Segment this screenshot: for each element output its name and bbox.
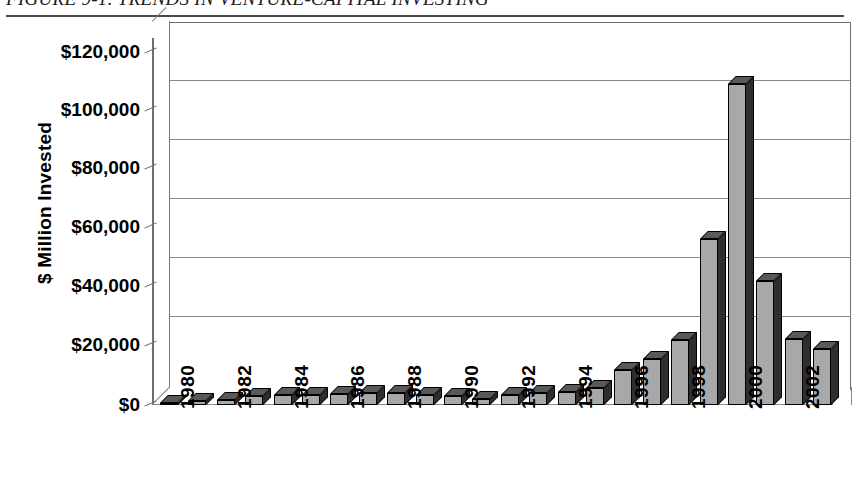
bar-1992 <box>501 395 519 405</box>
x-tick-label-1994: 1994 <box>575 365 597 409</box>
y-tick-label-60000: $60,000 <box>10 216 140 238</box>
y-tick-label-100000: $100,000 <box>10 99 140 121</box>
y-axis-tick-labels: $120,000 $100,000 $80,000 $60,000 $40,00… <box>10 22 140 479</box>
bar-2000 <box>728 84 746 405</box>
bar-side-face <box>774 273 782 405</box>
x-tick-label-1980: 1980 <box>177 365 199 409</box>
x-tick-label-1992: 1992 <box>518 365 540 409</box>
y-tick-label-0: $0 <box>10 394 140 416</box>
bar-front-face <box>671 340 689 405</box>
bar-front-face <box>558 392 576 405</box>
x-tick-label-1986: 1986 <box>347 365 369 409</box>
bar-front-face <box>330 394 348 405</box>
bar-1996 <box>614 370 632 405</box>
y-tick-label-20000: $20,000 <box>10 334 140 356</box>
bar-series <box>152 22 852 422</box>
bar-1998 <box>671 340 689 405</box>
x-tick-label-1996: 1996 <box>631 365 653 409</box>
bar-side-face <box>718 231 726 405</box>
x-tick-label-1998: 1998 <box>688 365 710 409</box>
figure-caption: FIGURE 9-1. TRENDS IN VENTURE-CAPITAL IN… <box>6 0 489 10</box>
bar-2002 <box>785 339 803 405</box>
bar-1984 <box>274 395 292 405</box>
x-tick-label-1988: 1988 <box>404 365 426 409</box>
bar-front-face <box>785 339 803 405</box>
bar-front-face <box>728 84 746 405</box>
y-tick-label-120000: $120,000 <box>10 41 140 63</box>
x-tick-label-2002: 2002 <box>802 365 824 409</box>
x-tick-label-1982: 1982 <box>234 365 256 409</box>
y-tick-label-40000: $40,000 <box>10 275 140 297</box>
venture-capital-bar-chart: $ Million Invested $120,000 $100,000 $80… <box>0 22 856 479</box>
x-tick-label-1990: 1990 <box>461 365 483 409</box>
bar-side-face <box>746 76 754 405</box>
figure-header: FIGURE 9-1. TRENDS IN VENTURE-CAPITAL IN… <box>0 0 856 22</box>
caption-divider <box>6 15 844 17</box>
bar-1988 <box>387 393 405 405</box>
x-tick-label-2000: 2000 <box>745 365 767 409</box>
y-tick-label-80000: $80,000 <box>10 157 140 179</box>
bar-front-face <box>274 395 292 405</box>
bar-front-face <box>387 393 405 405</box>
bar-side-face <box>661 351 669 405</box>
x-axis-tick-labels: 1980198219841986198819901992199419961998… <box>152 405 852 479</box>
bar-side-face <box>831 341 839 405</box>
bar-front-face <box>614 370 632 405</box>
bar-1994 <box>558 392 576 405</box>
x-tick-label-1984: 1984 <box>291 365 313 409</box>
bar-front-face <box>444 396 462 405</box>
bar-front-face <box>501 395 519 405</box>
bar-1990 <box>444 396 462 405</box>
bar-1986 <box>330 394 348 405</box>
